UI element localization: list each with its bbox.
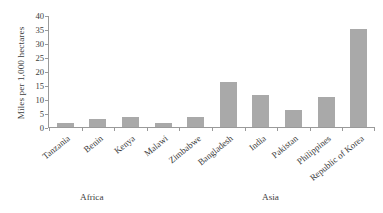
y-tick-mark <box>45 100 48 101</box>
bar-republic-of-korea <box>350 29 367 127</box>
bar-malawi <box>155 123 172 127</box>
y-tick-mark <box>45 58 48 59</box>
bar-slot <box>310 16 343 127</box>
y-axis-label: Miles per 1,000 hectares <box>14 8 28 138</box>
bar-slot <box>212 16 245 127</box>
y-tick-mark <box>45 16 48 17</box>
bar-series <box>49 16 375 127</box>
bar-slot <box>114 16 147 127</box>
y-tick-label: 5 <box>27 110 44 119</box>
y-tick-mark <box>45 86 48 87</box>
x-axis-category-labels: TanzaniaBeninKenyaMalawiZimbabweBanglade… <box>48 131 378 191</box>
y-tick-label: 15 <box>27 82 44 91</box>
y-tick-mark <box>45 30 48 31</box>
bar-bangladesh <box>220 82 237 127</box>
region-label-africa: Africa <box>80 192 103 202</box>
bar-benin <box>89 119 106 127</box>
bar-pakistan <box>285 110 302 127</box>
y-tick-label: 30 <box>27 40 44 49</box>
y-tick-label: 0 <box>27 124 44 133</box>
y-tick-mark <box>45 44 48 45</box>
y-tick-label: 40 <box>27 12 44 21</box>
bar-philippines <box>318 97 335 127</box>
y-tick-mark <box>45 72 48 73</box>
bar-zimbabwe <box>187 117 204 127</box>
bar-tanzania <box>57 123 74 127</box>
bar-slot <box>342 16 375 127</box>
bar-chart-figure: Miles per 1,000 hectares 051015202530354… <box>0 0 383 213</box>
y-tick-label: 10 <box>27 96 44 105</box>
bar-slot <box>147 16 180 127</box>
bar-slot <box>82 16 115 127</box>
y-tick-mark <box>45 114 48 115</box>
bar-slot <box>49 16 82 127</box>
y-tick-label: 20 <box>27 68 44 77</box>
plot-area: 0510152025303540 <box>48 16 375 128</box>
bar-kenya <box>122 117 139 127</box>
bar-slot <box>179 16 212 127</box>
y-tick-label: 25 <box>27 54 44 63</box>
region-label-asia: Asia <box>262 192 279 202</box>
bar-slot <box>277 16 310 127</box>
bar-slot <box>245 16 278 127</box>
y-tick-mark <box>45 128 48 129</box>
y-tick-label: 35 <box>27 26 44 35</box>
bar-india <box>252 95 269 127</box>
